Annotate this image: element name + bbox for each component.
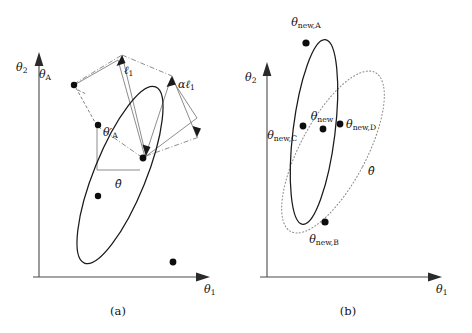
point-theta-new-A <box>302 39 309 46</box>
label-theta-new-A: θnew,A <box>291 16 321 30</box>
label-theta-hat: θ̂ <box>368 165 375 178</box>
panel-b: θ2 θ1 θnew,A θnew θnew,C θnew,D θnew,B θ… <box>236 0 472 333</box>
point-theta-A <box>71 82 77 88</box>
point-lower-left <box>95 193 101 199</box>
panel-b-caption: (b) <box>340 304 356 318</box>
label-theta-new-D: θnew,D <box>346 118 376 132</box>
y-axis-label: θ2 <box>16 61 28 75</box>
dim-box-l1-left-edge <box>76 60 118 84</box>
figure-container: θ2 θ1 ℓ1 αℓ1 <box>0 0 472 333</box>
dim-arrow-alpha-baseline <box>146 137 199 156</box>
panel-a: θ2 θ1 ℓ1 αℓ1 <box>0 0 236 333</box>
dim-rail-lower <box>145 118 197 157</box>
point-theta-new-C <box>300 123 307 130</box>
dim-arrow-l1-line <box>74 55 122 84</box>
dim-label-alpha-l1: αℓ1 <box>178 78 195 92</box>
leader-thetaA-to-thetaAprime <box>76 88 96 124</box>
dim-label-l1: ℓ1 <box>124 64 133 78</box>
point-theta-hat <box>140 155 147 162</box>
point-bottom-right <box>170 259 177 266</box>
panel-b-axes: θ2 θ1 <box>245 62 447 297</box>
dim-rail-mid <box>145 78 171 157</box>
panel-a-point-labels: θA θ′A θ̂ <box>39 68 122 191</box>
panel-a-dimension-construction: ℓ1 αℓ1 <box>74 55 201 170</box>
label-theta-A: θA <box>39 68 52 82</box>
x-axis-arrowhead <box>428 273 442 282</box>
updated-ellipse-solid <box>282 37 346 227</box>
point-theta-new <box>320 126 327 133</box>
point-theta-new-B <box>321 218 328 225</box>
y-axis-arrowhead <box>35 52 44 66</box>
original-ellipse-dotted <box>262 57 405 247</box>
x-axis-label: θ1 <box>436 283 447 297</box>
y-axis-label: θ2 <box>245 71 257 85</box>
panel-a-caption: (a) <box>110 304 126 318</box>
dim-arrow-alpha-head-top <box>167 76 176 87</box>
label-theta-A-prime: θ′A <box>103 126 118 140</box>
y-axis-arrowhead <box>263 62 272 76</box>
dim-arrow-alpha-head-bottom <box>193 126 202 137</box>
x-axis-label: θ1 <box>204 283 215 297</box>
point-theta-new-D <box>337 121 344 128</box>
label-theta-new: θnew <box>311 110 334 124</box>
x-axis-arrowhead <box>196 273 210 282</box>
label-theta-hat: θ̂ <box>115 178 122 191</box>
label-theta-new-B: θnew,B <box>309 233 339 247</box>
point-theta-A-prime <box>95 122 101 128</box>
